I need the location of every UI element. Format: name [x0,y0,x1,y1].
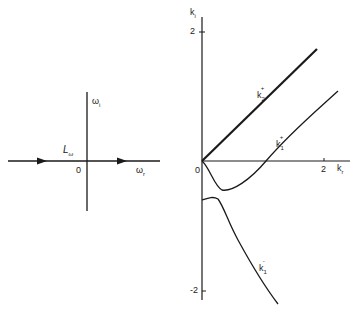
left-omega-plane [8,92,160,211]
omega-r-label: ωr [136,166,145,177]
right-k-plane [199,17,350,304]
contour-arrow-icon [117,158,127,165]
right-origin-label: 0 [195,166,200,175]
left-origin-label: 0 [76,166,81,175]
k-r-axis-label: kr [337,164,344,175]
curve-k1-minus [202,197,278,304]
contour-arrow-icon [37,158,47,165]
k1-minus-label: k1- [259,262,265,275]
k2-plus-label: k2+ [257,89,264,102]
omega-i-label: ωi [92,97,100,108]
k1-plus-label: k1+ [276,138,283,151]
x-tick-label-2: 2 [321,165,326,174]
y-tick-label-neg2: -2 [190,286,198,295]
y-tick-label-2: 2 [190,27,195,36]
diagram-canvas [0,0,352,309]
k-i-axis-label: ki [190,8,196,19]
curve-k2-plus [202,49,317,161]
contour-label: Lω [63,145,73,157]
